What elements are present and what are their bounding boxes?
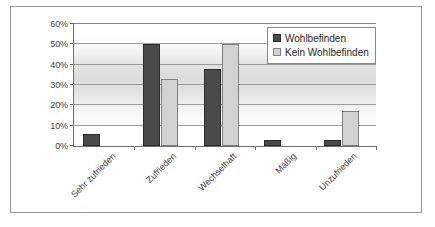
y-axis-label: 20% bbox=[50, 100, 68, 110]
x-axis-category-text: Zufrieden bbox=[144, 151, 178, 185]
legend-swatch-icon bbox=[273, 34, 281, 42]
y-axis-tick bbox=[70, 84, 74, 85]
x-axis-category-text: Wechselhaft bbox=[196, 151, 238, 193]
chart-frame: 0%10%20%30%40%50%60%Sehr zufriedenZufrie… bbox=[10, 6, 422, 213]
bar bbox=[143, 44, 160, 146]
y-axis-tick bbox=[70, 125, 74, 126]
y-axis-label: 50% bbox=[50, 39, 68, 49]
bar bbox=[324, 140, 341, 146]
x-axis-tick bbox=[376, 146, 377, 150]
bar bbox=[222, 44, 239, 146]
legend-item-label: Wohlbefinden bbox=[285, 33, 346, 44]
legend-item: Wohlbefinden bbox=[273, 31, 369, 45]
legend-item-label: Kein Wohlbefinden bbox=[285, 47, 369, 58]
y-axis-tick bbox=[70, 64, 74, 65]
y-axis-label: 40% bbox=[50, 60, 68, 70]
y-axis-tick bbox=[70, 43, 74, 44]
legend-swatch-icon bbox=[273, 48, 281, 56]
x-axis-category-text: Mäßig bbox=[274, 151, 299, 176]
y-axis-label: 60% bbox=[50, 19, 68, 29]
x-axis-tick bbox=[316, 146, 317, 150]
bar bbox=[264, 140, 281, 146]
y-axis-tick bbox=[70, 23, 74, 24]
y-axis-tick bbox=[70, 104, 74, 105]
y-axis-tick bbox=[70, 145, 74, 146]
gridline bbox=[74, 23, 376, 24]
x-axis-tick bbox=[255, 146, 256, 150]
y-axis-label: 10% bbox=[50, 121, 68, 131]
bar bbox=[161, 79, 178, 146]
x-axis-tick bbox=[134, 146, 135, 150]
y-axis-label: 30% bbox=[50, 80, 68, 90]
legend-item: Kein Wohlbefinden bbox=[273, 45, 369, 59]
chart-legend: Wohlbefinden Kein Wohlbefinden bbox=[267, 27, 376, 64]
y-axis-label: 0% bbox=[55, 141, 68, 151]
bar bbox=[204, 69, 221, 146]
bar bbox=[342, 111, 359, 146]
x-axis-category-text: Sehr zufrieden bbox=[69, 151, 117, 199]
x-axis-category-text: Unzufrieden bbox=[317, 151, 358, 192]
bar bbox=[83, 134, 100, 146]
x-axis-tick bbox=[195, 146, 196, 150]
